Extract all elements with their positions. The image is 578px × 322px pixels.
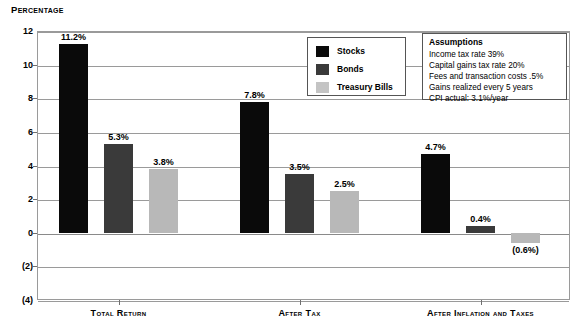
legend-label: Treasury Bills [337, 83, 393, 92]
bar-stocks-2 [421, 154, 450, 233]
bar-value-label: (0.6%) [498, 246, 553, 255]
y-axis-tick-label: 4 [3, 161, 33, 170]
y-axis-tick-label: (4) [3, 296, 33, 305]
y-axis-tick-label: 12 [3, 27, 33, 36]
assumptions-panel: Assumptions Income tax rate 39%Capital g… [422, 33, 567, 100]
x-axis-tick-mark [300, 300, 301, 305]
assumptions-line: CPI actual: 3.1%/year [429, 93, 566, 104]
assumptions-line: Income tax rate 39% [429, 49, 566, 60]
y-axis-tick-label: 6 [3, 127, 33, 136]
x-axis-category-label: After Inflation and Taxes [391, 309, 571, 318]
y-axis-tick-label: 8 [3, 94, 33, 103]
y-axis-title: Percentage [11, 4, 64, 15]
legend-swatch-icon [316, 46, 329, 57]
legend-swatch-icon [316, 64, 329, 75]
x-axis-tick-mark [481, 300, 482, 305]
bar-value-label: 7.8% [227, 91, 282, 100]
legend-swatch-icon [316, 82, 329, 93]
bar-treasury-bills-2 [511, 233, 540, 243]
y-axis-tick-label: (2) [3, 262, 33, 271]
legend-item-treasury-bills: Treasury Bills [316, 81, 393, 94]
bar-value-label: 3.8% [136, 158, 191, 167]
x-axis-category-label: After Tax [210, 309, 390, 318]
x-axis-tick-mark [119, 300, 120, 305]
y-axis: 121086420(2)(4) [0, 31, 33, 300]
assumptions-line: Capital gains tax rate 20% [429, 60, 566, 71]
bar-bonds-1 [285, 174, 314, 233]
assumptions-line: Fees and transaction costs .5% [429, 71, 566, 82]
chart-legend: StocksBondsTreasury Bills [307, 37, 406, 96]
bar-treasury-bills-0 [149, 169, 178, 233]
bar-value-label: 11.2% [46, 33, 101, 42]
legend-item-stocks: Stocks [316, 45, 365, 58]
assumptions-line: Gains realized every 5 years [429, 82, 566, 93]
y-axis-tick-label: 0 [3, 228, 33, 237]
assumptions-title: Assumptions [429, 37, 566, 49]
bar-chart: Percentage 121086420(2)(4) 11.2%5.3%3.8%… [0, 0, 578, 322]
bar-stocks-0 [59, 44, 88, 232]
bar-value-label: 0.4% [453, 215, 508, 224]
bar-stocks-1 [240, 102, 269, 233]
bar-value-label: 5.3% [91, 133, 146, 142]
legend-label: Bonds [337, 65, 363, 74]
bar-value-label: 4.7% [408, 143, 463, 152]
bar-bonds-2 [466, 226, 495, 233]
x-axis-category-label: Total Return [29, 309, 209, 318]
bar-value-label: 2.5% [317, 180, 372, 189]
y-axis-tick-label: 2 [3, 195, 33, 204]
bar-value-label: 3.5% [272, 163, 327, 172]
bar-bonds-0 [104, 144, 133, 233]
bar-treasury-bills-1 [330, 191, 359, 233]
legend-label: Stocks [337, 47, 365, 56]
legend-item-bonds: Bonds [316, 63, 363, 76]
y-axis-tick-label: 10 [3, 60, 33, 69]
